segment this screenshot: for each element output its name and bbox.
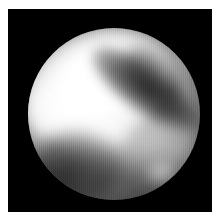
- bright-tail: [52, 110, 134, 160]
- dark-diagonal-band-upper: [115, 35, 191, 108]
- planetary-disk-photograph: [8, 9, 212, 212]
- bright-left-lobe: [28, 84, 102, 140]
- bright-albedo-region: [28, 28, 187, 164]
- limb-darkening: [28, 28, 200, 200]
- mid-upper-right: [140, 36, 200, 84]
- dark-diagonal-band: [81, 33, 200, 145]
- vertical-scanlines: [28, 28, 200, 200]
- dark-lower-left-patch: [30, 132, 122, 200]
- bright-speck-lower-right: [146, 160, 176, 184]
- bright-core: [47, 32, 156, 125]
- planetary-disk: [28, 28, 200, 200]
- page-canvas: [0, 0, 218, 222]
- dark-bottom-mottling: [82, 147, 198, 200]
- mid-grey-right-limb: [132, 120, 200, 192]
